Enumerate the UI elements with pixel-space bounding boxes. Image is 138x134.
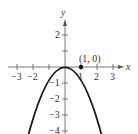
y-tick-label: −4 <box>49 125 60 134</box>
point-marker <box>79 65 83 69</box>
x-axis-label: x <box>125 61 131 72</box>
y-tick-label: −2 <box>49 93 60 104</box>
x-tick-label: 3 <box>110 71 115 82</box>
y-axis-arrow-icon <box>63 19 67 26</box>
x-tick-label: −2 <box>27 71 38 82</box>
x-tick-label: −3 <box>11 71 22 82</box>
x-axis-arrow-icon <box>118 65 124 69</box>
parabola-graph: (1, 0) x y −3 −2 1 2 3 2 −1 −2 −3 −4 <box>0 0 138 134</box>
y-tick-label: −1 <box>49 77 60 88</box>
y-tick-label: 2 <box>55 29 60 40</box>
x-tick-label: 1 <box>78 71 83 82</box>
y-tick-label: −3 <box>49 109 60 120</box>
point-label: (1, 0) <box>79 53 101 65</box>
x-tick-label: 2 <box>94 71 99 82</box>
y-axis-label: y <box>60 7 66 18</box>
